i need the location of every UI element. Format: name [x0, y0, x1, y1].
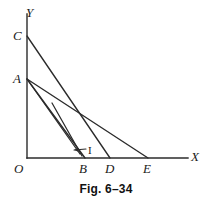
point-label-e: E	[143, 162, 151, 175]
axes-group	[27, 14, 188, 158]
curve-label-i: I	[88, 145, 92, 156]
figure-caption: Fig. 6–34	[0, 182, 212, 196]
point-label-origin: O	[14, 162, 23, 175]
axis-label-y: Y	[26, 6, 33, 19]
segment-A-B-inner	[27, 79, 80, 154]
point-label-d: D	[105, 162, 114, 175]
axis-label-x: X	[191, 150, 199, 163]
segments-group	[27, 36, 148, 158]
point-label-c: C	[13, 29, 22, 42]
point-label-b: B	[79, 162, 87, 175]
figure-container: Y C A O B D E X I Fig. 6–34	[0, 0, 212, 204]
point-label-a: A	[13, 72, 21, 85]
